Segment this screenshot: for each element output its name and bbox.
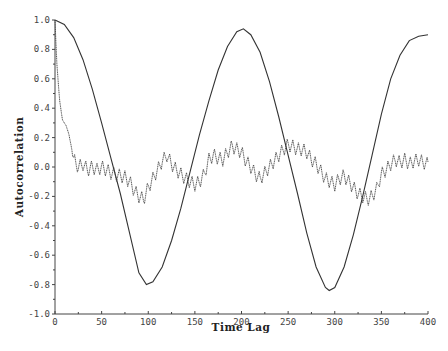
y-tick-label: -0.4 <box>28 221 50 231</box>
y-tick-label: -0.6 <box>28 250 50 260</box>
x-axis-title: Time Lag <box>212 321 271 333</box>
y-axis-ticks: -1.0-0.8-0.6-0.4-0.20.00.20.40.60.81.0 <box>28 15 55 319</box>
y-tick-label: -0.2 <box>28 191 50 201</box>
y-tick-label: 0.6 <box>34 74 50 84</box>
autocorrelation-chart: -1.0-0.8-0.6-0.4-0.20.00.20.40.60.81.0 0… <box>0 0 448 351</box>
noisy-series-line <box>55 20 428 205</box>
x-tick-label: 350 <box>373 317 389 327</box>
y-tick-label: -0.8 <box>28 280 50 290</box>
y-axis-title: Autocorrelation <box>13 117 25 219</box>
y-tick-label: 0.0 <box>34 162 50 172</box>
plot-area: -1.0-0.8-0.6-0.4-0.20.00.20.40.60.81.0 0… <box>28 15 436 327</box>
x-tick-label: 50 <box>96 317 107 327</box>
x-tick-label: 100 <box>140 317 156 327</box>
x-tick-label: 150 <box>187 317 203 327</box>
smooth-series-line <box>55 20 428 291</box>
x-tick-label: 250 <box>280 317 296 327</box>
y-tick-label: 0.4 <box>34 103 50 113</box>
y-tick-label: 0.2 <box>34 133 50 143</box>
x-tick-label: 400 <box>420 317 436 327</box>
x-tick-label: 0 <box>52 317 57 327</box>
y-tick-label: 1.0 <box>34 15 50 25</box>
y-tick-label: -1.0 <box>28 309 50 319</box>
x-tick-label: 300 <box>327 317 343 327</box>
y-tick-label: 0.8 <box>34 44 50 54</box>
